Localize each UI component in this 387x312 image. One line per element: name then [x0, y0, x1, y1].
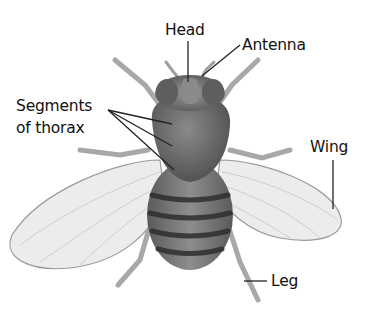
label-leg: Leg [271, 273, 298, 290]
label-wing: Wing [310, 139, 348, 156]
label-antenna: Antenna [242, 37, 306, 54]
label-head: Head [165, 22, 205, 39]
label-thorax-line2: of thorax [16, 120, 85, 137]
head [155, 75, 225, 111]
label-thorax-line1: Segments [16, 98, 92, 115]
fly-illustration [0, 0, 387, 312]
fly-diagram: Head Antenna Segments of thorax Wing Leg [0, 0, 387, 312]
